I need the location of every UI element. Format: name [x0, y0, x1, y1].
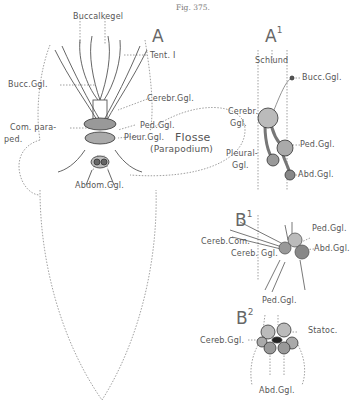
label-b2-ped-ggl: Ped.Ggl.	[262, 297, 297, 305]
figure-number: Fig. 375.	[176, 3, 210, 12]
label-a-ped-ggl: Ped.Ggl.	[140, 122, 175, 130]
panel-a1-sup: 1	[277, 25, 283, 35]
label-schlund: Schlund	[255, 57, 288, 65]
panel-b1-letter: B1	[235, 212, 252, 229]
label-a1-bucc-ggl: Bucc.Ggl.	[302, 74, 342, 82]
body-outline	[40, 190, 156, 400]
figure-375: Fig. 375. A Buccalkegel Tent. I Bucc.Ggl…	[0, 0, 359, 408]
panel-b1-letter-text: B	[235, 210, 247, 230]
label-a-pleur-ggl: Pleur.Ggl.	[124, 134, 164, 142]
panel-b1-sup: 1	[247, 209, 253, 219]
panel-a1-letter: A1	[265, 28, 282, 45]
label-tent: Tent. I	[150, 52, 176, 60]
label-b2-cereb-ggl: Cereb.Ggl.	[200, 337, 244, 345]
label-b1-ped-ggl: Ped.Ggl.	[312, 225, 347, 233]
label-a1-cereb-ggl: Ggl.	[230, 120, 247, 128]
label-flosse: Flosse	[175, 132, 211, 143]
diagram-drawing	[0, 0, 359, 408]
label-b1-abd-ggl: Abd.Ggl.	[314, 245, 350, 253]
label-b1-cereb-com: Cereb.Com.	[201, 238, 250, 246]
panel-b2-letter: B2	[236, 310, 253, 327]
panel-a-letter: A	[152, 28, 164, 45]
label-abdom-ggl: Abdom.Ggl.	[75, 182, 124, 190]
label-a-cerebr-ggl: Cerebr.Ggl.	[147, 95, 194, 103]
label-a1-abd-ggl: Abd.Ggl.	[298, 171, 334, 179]
label-b2-statoc: Statoc.	[308, 327, 338, 335]
panel-b2-letter-text: B	[236, 308, 248, 328]
label-b2-abd-ggl: Abd.Ggl.	[259, 387, 295, 395]
label-a1-cereb: Cerebr.	[228, 108, 258, 116]
label-a-bucc-ggl: Bucc.Ggl.	[8, 81, 48, 89]
label-parapodium: (Parapodium)	[150, 145, 213, 154]
label-com-para: Com. para-	[10, 124, 56, 132]
panel-b2-sup: 2	[248, 307, 254, 317]
label-buccalkegel: Buccalkegel	[73, 13, 123, 21]
label-com-para-ped: ped.	[4, 136, 22, 144]
left-fin-outline	[19, 140, 40, 195]
label-a1-pleural-ggl: Ggl.	[232, 162, 249, 170]
panel-a1-letter-text: A	[265, 26, 277, 46]
label-b1-cereb-ggl: Cereb. Ggl.	[231, 250, 278, 258]
label-a1-ped-ggl: Ped.Ggl.	[300, 141, 335, 149]
label-a1-pleural: Pleural-	[226, 150, 258, 158]
